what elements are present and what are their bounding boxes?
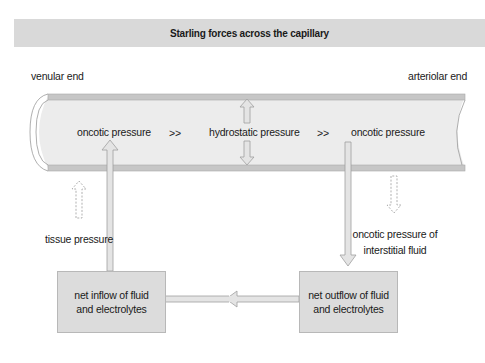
- tissue-pressure-label: tissue pressure: [45, 233, 113, 246]
- tissue-pressure-dashed-arrow-icon: [72, 181, 86, 218]
- net-outflow-line-1: net outflow of fluid: [308, 288, 389, 302]
- net-outflow-line-2: and electrolytes: [308, 302, 389, 316]
- venular-end-label: venular end: [31, 70, 84, 83]
- return-left-arrow-icon: [166, 291, 299, 307]
- hydrostatic-pressure-label: hydrostatic pressure: [209, 126, 300, 139]
- net-inflow-line-1: net inflow of fluid: [74, 288, 148, 302]
- interstitial-oncotic-label: oncotic pressure of interstitial fluid: [358, 228, 432, 257]
- greater-than-separator-1: >>: [169, 127, 181, 140]
- interstitial-oncotic-line-2: interstitial fluid: [350, 244, 440, 257]
- net-inflow-line-2: and electrolytes: [74, 302, 148, 316]
- interstitial-oncotic-dashed-arrow-icon: [387, 176, 401, 213]
- greater-than-separator-2: >>: [317, 127, 329, 140]
- oncotic-pressure-arteriolar-label: oncotic pressure: [351, 126, 425, 139]
- arteriolar-end-label: arteriolar end: [408, 70, 467, 83]
- net-inflow-box: net inflow of fluid and electrolytes: [57, 271, 166, 333]
- oncotic-pressure-venular-label: oncotic pressure: [77, 126, 151, 139]
- net-outflow-box: net outflow of fluid and electrolytes: [299, 271, 398, 333]
- interstitial-oncotic-line-1: oncotic pressure of: [350, 228, 440, 241]
